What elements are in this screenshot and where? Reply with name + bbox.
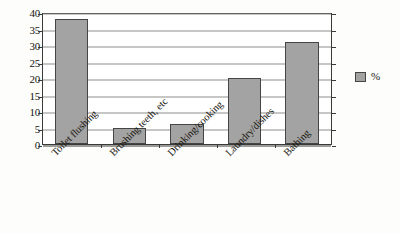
y-axis-tick-label: 20 — [29, 74, 40, 85]
plot-wrapper: 4035302520151050 Toilet flushingBrushing… — [0, 0, 400, 233]
y-axis-tick-mark — [38, 47, 42, 48]
y-axis-tick-mark — [38, 130, 42, 131]
y-axis-tick-mark-right — [332, 97, 336, 98]
x-label-slot: Brushing teeth, etc — [100, 147, 158, 231]
bar-slot — [273, 14, 331, 144]
y-axis-tick-mark-right — [332, 64, 336, 65]
y-axis-tick-mark — [38, 64, 42, 65]
legend-swatch-percent — [355, 72, 366, 82]
y-axis-tick-mark-right — [332, 130, 336, 131]
y-axis-tick-label: 15 — [29, 90, 40, 101]
y-axis-tick-mark — [38, 113, 42, 114]
y-axis-tick-mark — [38, 80, 42, 81]
y-axis-tick-label: 0 — [35, 140, 40, 151]
legend: % — [355, 71, 380, 82]
x-axis-category-labels: Toilet flushingBrushing teeth, etcDrinki… — [42, 147, 332, 231]
x-label-slot: Toilet flushing — [42, 147, 100, 231]
legend-label-percent: % — [371, 71, 380, 82]
y-axis-tick-label: 5 — [35, 123, 40, 134]
y-axis-tick-mark-right — [332, 31, 336, 32]
y-axis-tick-mark-right — [332, 113, 336, 114]
y-axis-tick-mark — [38, 14, 42, 15]
y-axis-tick-mark-right — [332, 47, 336, 48]
y-axis-tick-mark-right — [332, 14, 336, 15]
y-axis-tick-label: 10 — [29, 107, 40, 118]
x-label-slot: Laundry/dishes — [216, 147, 274, 231]
bar-slot — [43, 14, 101, 144]
y-axis-tick-label: 35 — [29, 24, 40, 35]
bar-chart: 4035302520151050 Toilet flushingBrushing… — [0, 0, 400, 233]
y-axis-tick-label: 25 — [29, 57, 40, 68]
y-axis-tick-mark — [38, 97, 42, 98]
x-label-slot: Drinking/cooking — [158, 147, 216, 231]
bar-slot — [101, 14, 159, 144]
y-axis-tick-mark — [38, 31, 42, 32]
y-axis-tick-labels: 4035302520151050 — [14, 13, 40, 145]
x-label-slot: Bathing — [274, 147, 332, 231]
y-axis-tick-mark-right — [332, 80, 336, 81]
y-axis-tick-label: 30 — [29, 41, 40, 52]
y-axis-tick-mark-right — [332, 146, 336, 147]
y-axis-tick-label: 40 — [29, 8, 40, 19]
